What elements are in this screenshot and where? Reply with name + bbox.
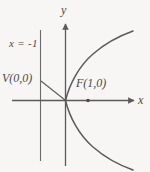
focus-label: F(1,0) (76, 77, 106, 89)
focus-point-marker (86, 99, 90, 103)
directrix-label: x = -1 (9, 38, 38, 49)
vertex-leader-line (41, 81, 65, 100)
parabola-figure: x = -1 V(0,0) F(1,0) x y (0, 0, 150, 172)
parabola-diagram-canvas (0, 0, 150, 172)
parabola-upper-branch (66, 31, 134, 101)
parabola-lower-branch (66, 101, 134, 171)
vertex-label: V(0,0) (2, 72, 32, 84)
y-axis-label: y (61, 4, 66, 16)
x-axis-label: x (138, 94, 143, 106)
